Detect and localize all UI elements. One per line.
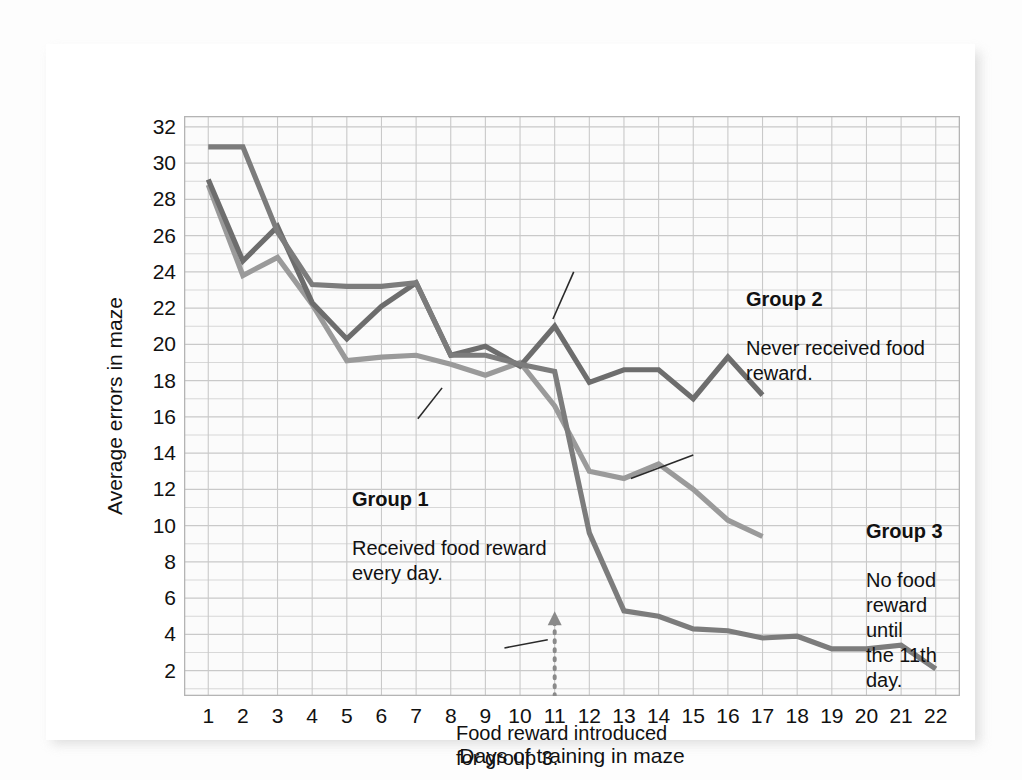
y-axis-tick-label: 14 (136, 441, 176, 465)
annotation-group-1: Group 1 Received food reward every day. (352, 462, 547, 586)
annotation-group-3-body: No food reward until the 11th day. (866, 569, 937, 690)
leader-line-food-reward (504, 640, 547, 648)
y-axis-tick-label: 2 (136, 659, 176, 683)
y-axis-tick-label: 26 (136, 224, 176, 248)
marker-arrowhead-icon (548, 611, 562, 625)
y-axis-tick-label: 6 (136, 586, 176, 610)
plot-area: Group 1 Received food reward every day. … (184, 116, 960, 696)
y-axis-tick-label: 18 (136, 369, 176, 393)
annotation-group-1-body: Received food reward every day. (352, 537, 547, 584)
leader-line-group-1 (418, 388, 442, 419)
y-axis-tick-labels: 3230282624222018161412108642 (124, 116, 176, 696)
series-line-group-3 (208, 147, 936, 669)
y-axis-tick-label: 12 (136, 477, 176, 501)
y-axis-tick-label: 8 (136, 550, 176, 574)
annotation-group-3-title: Group 3 (866, 519, 960, 544)
data-series-lines (184, 116, 960, 696)
y-axis-tick-label: 22 (136, 296, 176, 320)
y-axis-tick-label: 4 (136, 622, 176, 646)
y-axis-tick-label: 20 (136, 332, 176, 356)
leader-line-group-3 (631, 455, 693, 479)
y-axis-tick-label: 30 (136, 151, 176, 175)
y-axis-tick-label: 28 (136, 187, 176, 211)
annotation-group-2-body: Never received food reward. (746, 337, 925, 384)
x-axis-tick-labels: 12345678910111213141516171819202122 (184, 704, 960, 736)
y-axis-tick-label: 32 (136, 115, 176, 139)
x-axis-tick-label: 22 (916, 704, 956, 728)
y-axis-tick-label: 24 (136, 260, 176, 284)
chart-card: Average errors in maze 32302826242220181… (46, 44, 975, 740)
annotation-group-2-title: Group 2 (746, 287, 925, 312)
x-axis-title: Days of training in maze (184, 744, 960, 768)
y-axis-tick-label: 10 (136, 514, 176, 538)
leader-line-group-2 (553, 272, 574, 319)
annotation-group-3: Group 3 No food reward until the 11th da… (866, 494, 960, 692)
y-axis-tick-label: 16 (136, 405, 176, 429)
annotation-group-2: Group 2 Never received food reward. (746, 262, 925, 386)
chart-page: Average errors in maze 32302826242220181… (0, 0, 1022, 780)
annotation-group-1-title: Group 1 (352, 487, 547, 512)
series-line-group-2 (208, 179, 762, 398)
